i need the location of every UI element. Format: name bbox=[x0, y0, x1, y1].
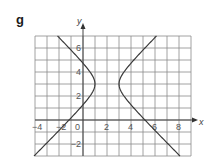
x-tick-label: 8 bbox=[176, 122, 181, 132]
grid bbox=[35, 36, 191, 156]
y-tick-label: 2 bbox=[76, 91, 81, 101]
x-tick-label: −2 bbox=[56, 122, 66, 132]
x-tick-label: −4 bbox=[32, 122, 42, 132]
x-tick-label: 0 bbox=[75, 122, 80, 132]
y-axis-label: y bbox=[76, 16, 82, 26]
y-tick-label: −2 bbox=[71, 139, 81, 149]
y-tick-label: 6 bbox=[76, 43, 81, 53]
x-tick-label: 4 bbox=[128, 122, 133, 132]
hyperbola-plot: x y −4−202468−2246 bbox=[0, 0, 212, 168]
x-axis-arrow-icon bbox=[192, 118, 198, 123]
y-tick-label: 4 bbox=[76, 67, 81, 77]
x-axis-label: x bbox=[198, 117, 204, 127]
x-tick-label: 2 bbox=[104, 122, 109, 132]
